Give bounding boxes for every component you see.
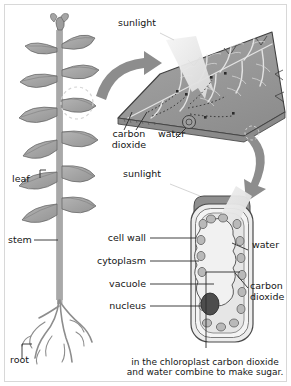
label-nucleus: nucleus	[88, 301, 146, 312]
diagram-artwork	[0, 0, 291, 386]
cell-closeup-illustration	[191, 186, 253, 342]
label-carbon-dioxide-cell: carbon dioxide	[250, 281, 284, 302]
label-cytoplasm: cytoplasm	[82, 256, 146, 267]
label-stem: stem	[8, 235, 32, 246]
label-sunlight-leaf: sunlight	[118, 18, 156, 29]
label-water-leaf: water	[158, 129, 185, 140]
photosynthesis-figure: sunlight carbon dioxide water sunlight l…	[0, 0, 291, 386]
chloroplast-caption: in the chloroplast carbon dioxide and wa…	[121, 357, 289, 377]
leaf-closeup-illustration	[118, 32, 285, 142]
label-carbon-dioxide-leaf: carbon dioxide	[106, 129, 152, 150]
label-leaf: leaf	[12, 174, 30, 185]
label-sunlight-cell: sunlight	[123, 169, 161, 180]
label-cell-wall: cell wall	[88, 233, 146, 244]
label-root: root	[10, 355, 29, 366]
label-vacuole: vacuole	[88, 279, 146, 290]
label-water-cell: water	[252, 240, 279, 251]
plant-leader-lines	[22, 170, 58, 358]
plant-illustration	[19, 13, 99, 364]
arrow-leaf-to-cell	[244, 134, 266, 202]
